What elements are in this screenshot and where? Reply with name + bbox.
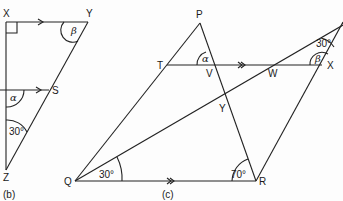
- label-x: X: [3, 8, 10, 19]
- angle-z-value: 30°: [9, 126, 24, 137]
- label-w: W: [268, 68, 278, 79]
- label-r: R: [259, 176, 266, 187]
- angle-alpha: α: [202, 53, 209, 64]
- label-p: P: [196, 9, 203, 20]
- label-q: Q: [64, 176, 72, 187]
- figure-b: X Y S Z β α 30° (b): [0, 8, 93, 200]
- line-qp: [75, 23, 200, 181]
- diagram-canvas: X Y S Z β α 30° (b) P T V W X Y Q R α: [0, 0, 343, 201]
- line-pr: [200, 23, 256, 181]
- angle-beta: β: [314, 53, 321, 64]
- label-y: Y: [219, 103, 226, 114]
- label-s: S: [52, 85, 59, 96]
- caption-c: (c): [162, 189, 174, 200]
- angle-r-value: 70°: [231, 169, 246, 180]
- caption-b: (b): [3, 189, 15, 200]
- label-v: V: [206, 68, 213, 79]
- angle-arc-q: [117, 157, 122, 181]
- label-z: Z: [3, 172, 9, 183]
- angle-q-value: 30°: [99, 169, 114, 180]
- line-yz: [6, 22, 88, 170]
- right-angle-mark: [6, 22, 17, 33]
- label-x: X: [327, 60, 334, 71]
- angle-alpha: α: [10, 92, 17, 103]
- angle-beta: β: [70, 25, 77, 36]
- geometry-figure: X Y S Z β α 30° (b) P T V W X Y Q R α: [0, 0, 343, 201]
- label-t: T: [157, 60, 163, 71]
- label-y: Y: [86, 8, 93, 19]
- angle-top-right: 30°: [316, 38, 331, 49]
- figure-c: P T V W X Y Q R α β 30° 30° 70° (c): [64, 9, 343, 200]
